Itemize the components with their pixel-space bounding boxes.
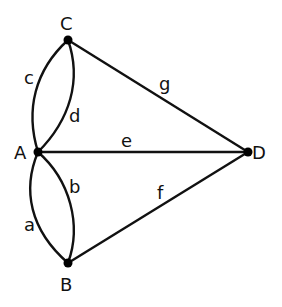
edge-a	[30, 152, 68, 263]
edge-label-e: e	[121, 130, 132, 151]
edge-label-d: d	[69, 105, 80, 126]
node-label-a: A	[14, 142, 27, 163]
node-label-c: C	[60, 13, 73, 34]
edge-label-a: a	[24, 214, 35, 235]
node-label-d: D	[252, 142, 266, 163]
edge-label-f: f	[157, 182, 164, 203]
edge-g	[68, 40, 248, 152]
edge-label-c: c	[24, 67, 34, 88]
edge-b	[38, 152, 74, 263]
node-b	[64, 259, 73, 268]
edge-f	[68, 152, 248, 263]
edge-label-g: g	[159, 73, 170, 94]
graph-diagram: A B C D a b c d e f g	[0, 0, 282, 307]
node-c	[64, 36, 73, 45]
edge-d	[38, 40, 74, 152]
node-label-b: B	[60, 274, 72, 295]
edge-label-b: b	[69, 176, 80, 197]
node-a	[34, 148, 43, 157]
edge-c	[32, 40, 68, 152]
